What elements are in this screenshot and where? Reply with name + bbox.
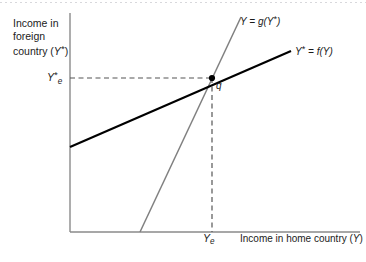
y-axis-title: Income in foreign country (Y*)	[13, 17, 68, 58]
curve-g-line	[140, 17, 241, 232]
y-axis-tick-label-equilibrium: Y*e	[47, 69, 62, 87]
curve-f-post: )	[329, 46, 332, 57]
x-axis-tick-label-equilibrium: Ye	[203, 232, 215, 247]
curve-f-variable: Y	[295, 46, 302, 57]
x-axis-title: Income in home country (Y)	[240, 233, 363, 245]
curve-label-g: Y = g(Y*)	[240, 14, 280, 28]
y-axis-title-line3-pre: country (	[13, 45, 54, 57]
x-axis-title-post: )	[360, 233, 363, 244]
curve-g-pre: Y = g(	[240, 16, 267, 27]
x-axis-title-pre: Income in home country (	[240, 233, 353, 244]
curve-f-line	[70, 51, 291, 147]
x-axis-title-variable: Y	[353, 233, 360, 244]
x-tick-subscript: e	[210, 237, 215, 246]
y-axis-title-variable: Y	[54, 45, 61, 57]
y-axis-title-line2: foreign	[13, 30, 45, 42]
x-tick-variable: Y	[203, 232, 210, 244]
y-tick-variable: Y	[47, 71, 54, 83]
y-axis-title-line1: Income in	[13, 17, 59, 29]
equilibrium-point-marker	[209, 75, 215, 81]
y-axis-title-line3-post: )	[65, 45, 69, 57]
curve-f-mid: = f(	[305, 46, 323, 57]
curve-label-f: Y* = f(Y)	[295, 44, 333, 58]
equilibrium-point-label: q	[216, 80, 222, 92]
figure-canvas: Income in foreign country (Y*) Income in…	[0, 0, 366, 262]
curve-g-post: )	[277, 16, 280, 27]
y-tick-subscript: e	[58, 77, 63, 86]
